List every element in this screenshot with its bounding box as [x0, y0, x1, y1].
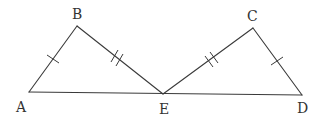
tick-mark-ec	[205, 52, 218, 67]
segment-cd	[253, 28, 302, 95]
tick-mark-cd	[271, 57, 283, 65]
geometry-diagram: A B C D E	[0, 0, 326, 118]
segment-ec	[163, 28, 253, 94]
vertex-label-a: A	[15, 99, 27, 115]
diagram-canvas: A B C D E	[0, 0, 326, 118]
vertex-label-b: B	[72, 6, 82, 22]
vertex-label-c: C	[247, 8, 258, 24]
vertex-label-d: D	[297, 100, 308, 116]
tick-mark-ab	[47, 55, 59, 63]
vertex-label-e: E	[159, 101, 169, 117]
